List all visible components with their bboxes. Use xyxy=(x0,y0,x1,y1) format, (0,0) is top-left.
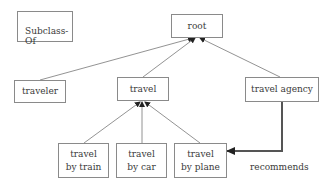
node-travel-by-car-line2: by car xyxy=(127,161,155,174)
node-travel: travel xyxy=(117,77,169,101)
node-travel-agency-label: travel agency xyxy=(251,83,313,96)
node-traveler: traveler xyxy=(14,80,66,103)
ontology-diagram: Subclass-Of root traveler travel travel … xyxy=(0,0,332,185)
node-travel-by-plane: travel by plane xyxy=(174,143,227,178)
node-travel-by-plane-line1: travel xyxy=(187,148,214,161)
node-travel-by-train: travel by train xyxy=(58,143,109,178)
edge-plane-travel xyxy=(145,102,200,143)
node-root-label: root xyxy=(188,20,207,33)
node-travel-by-car-line1: travel xyxy=(128,148,155,161)
node-travel-by-train-line2: by train xyxy=(66,161,102,174)
legend-label: Subclass-Of xyxy=(25,26,72,46)
node-travel-by-car: travel by car xyxy=(116,143,167,178)
node-root: root xyxy=(171,14,223,38)
node-travel-by-plane-line2: by plane xyxy=(181,161,220,174)
edge-recommends xyxy=(227,102,282,151)
legend-box: Subclass-Of xyxy=(17,11,73,42)
node-travel-agency: travel agency xyxy=(245,77,319,102)
node-travel-by-train-line1: travel xyxy=(70,148,97,161)
edge-travel-root xyxy=(143,38,195,77)
edge-agency-root xyxy=(200,38,280,77)
edge-train-travel xyxy=(84,102,140,143)
node-travel-label: travel xyxy=(130,83,157,96)
recommends-label: recommends xyxy=(250,162,309,172)
node-traveler-label: traveler xyxy=(22,85,58,98)
